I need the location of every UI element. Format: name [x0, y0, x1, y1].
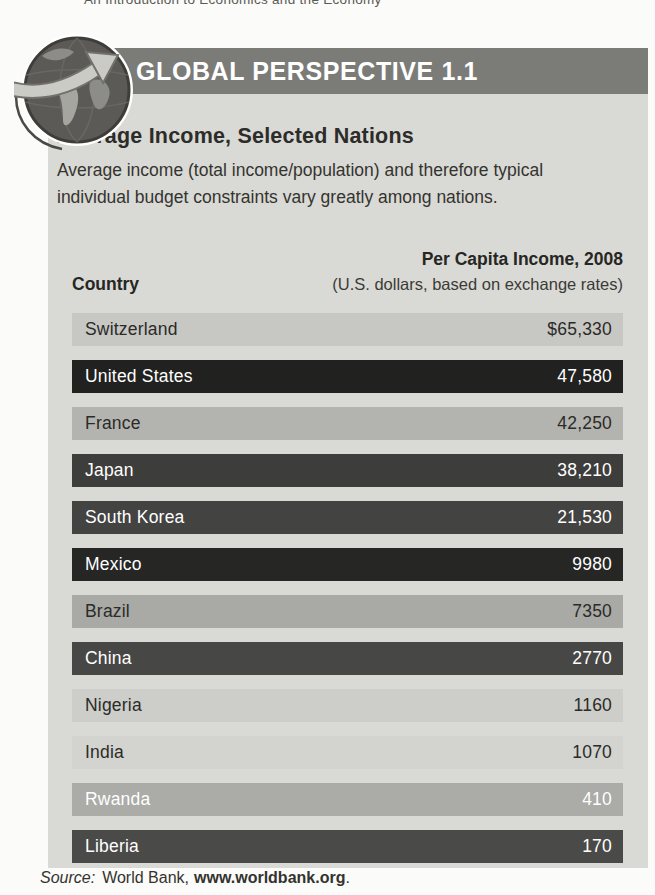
table-row: Switzerland $65,330 [72, 313, 623, 346]
income-value: 21,530 [557, 507, 612, 528]
income-value: 1070 [572, 742, 612, 763]
income-value: 170 [582, 836, 612, 857]
banner-title: GLOBAL PERSPECTIVE 1.1 [136, 57, 478, 86]
income-table-rows: Switzerland $65,330 United States 47,580… [72, 313, 623, 877]
table-row: South Korea 21,530 [72, 501, 623, 534]
figure-description-line1: Average income (total income/population)… [57, 157, 642, 184]
table-row: Liberia 170 [72, 830, 623, 863]
income-value: 9980 [572, 554, 612, 575]
global-perspective-banner: GLOBAL PERSPECTIVE 1.1 [96, 48, 648, 94]
table-row: France 42,250 [72, 407, 623, 440]
globe-arrow-icon [14, 30, 140, 156]
table-header-row: Country (U.S. dollars, based on exchange… [72, 274, 623, 295]
country-label: South Korea [85, 507, 185, 528]
table-row: China 2770 [72, 642, 623, 675]
table-row: Mexico 9980 [72, 548, 623, 581]
income-value: 410 [582, 789, 612, 810]
country-label: India [85, 742, 124, 763]
source-line: Source:World Bank,www.worldbank.org. [40, 869, 350, 887]
income-value: 42,250 [557, 413, 612, 434]
textbook-page: An Introduction to Economics and the Eco… [0, 0, 655, 895]
col-header-income-subtitle: (U.S. dollars, based on exchange rates) [332, 275, 623, 294]
country-label: Liberia [85, 836, 139, 857]
col-header-country: Country [72, 274, 139, 295]
figure-description-line2: individual budget constraints vary great… [57, 184, 642, 211]
country-label: Mexico [85, 554, 142, 575]
income-value: 7350 [572, 601, 612, 622]
source-label: Source: [40, 869, 95, 886]
table-row: Japan 38,210 [72, 454, 623, 487]
source-publisher: World Bank, [102, 869, 189, 886]
income-value: 38,210 [557, 460, 612, 481]
table-row: Rwanda 410 [72, 783, 623, 816]
table-row: United States 47,580 [72, 360, 623, 393]
country-label: Rwanda [85, 789, 150, 810]
source-period: . [345, 869, 349, 886]
table-row: Brazil 7350 [72, 595, 623, 628]
country-label: United States [85, 366, 193, 387]
country-label: Japan [85, 460, 134, 481]
income-value: $65,330 [547, 319, 612, 340]
figure-description: Average income (total income/population)… [57, 157, 642, 211]
col-header-income: Per Capita Income, 2008 [422, 249, 623, 270]
income-value: 1160 [574, 695, 612, 716]
country-label: France [85, 413, 141, 434]
source-url: www.worldbank.org [194, 869, 345, 886]
running-head: An Introduction to Economics and the Eco… [84, 0, 382, 7]
figure-box: Average Income, Selected Nations Average… [48, 94, 648, 868]
country-label: Nigeria [85, 695, 142, 716]
income-value: 47,580 [557, 366, 612, 387]
table-row: India 1070 [72, 736, 623, 769]
table-row: Nigeria 1160 [72, 689, 623, 722]
country-label: Switzerland [85, 319, 178, 340]
income-value: 2770 [572, 648, 612, 669]
country-label: China [85, 648, 132, 669]
country-label: Brazil [85, 601, 130, 622]
